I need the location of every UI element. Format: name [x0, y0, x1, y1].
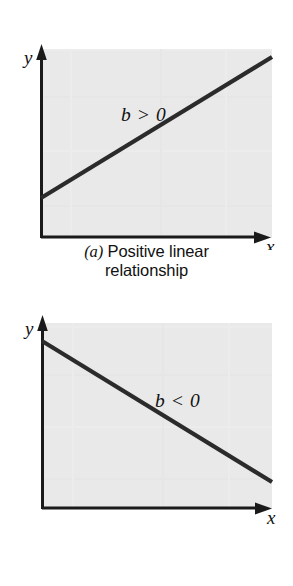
caption-a: (a) Positive linear relationship: [0, 242, 293, 280]
plot-background-b: [42, 323, 272, 509]
figure-panel-a: y x b > 0 (a) Positive linear relationsh…: [0, 0, 293, 293]
y-axis-label-a: y: [22, 47, 33, 68]
slope-annotation-b: b < 0: [155, 390, 200, 411]
figure-panel-b: y x b < 0 (b) Negative linear relationsh…: [0, 293, 293, 586]
x-axis-label-b: x: [266, 507, 276, 528]
y-axis-label-b: y: [23, 318, 34, 339]
plot-svg-a: y x b > 0: [0, 0, 293, 250]
caption-a-line1: (a) Positive linear: [0, 242, 293, 261]
caption-a-line1-text: Positive linear: [108, 242, 209, 260]
caption-a-tag: (a): [84, 242, 103, 261]
plot-area-b: y x b < 0: [0, 293, 293, 509]
plot-svg-b: y x b < 0: [0, 293, 293, 543]
slope-annotation-a: b > 0: [121, 104, 166, 125]
caption-a-line2: relationship: [0, 261, 293, 280]
plot-area-a: y x b > 0: [0, 0, 293, 216]
